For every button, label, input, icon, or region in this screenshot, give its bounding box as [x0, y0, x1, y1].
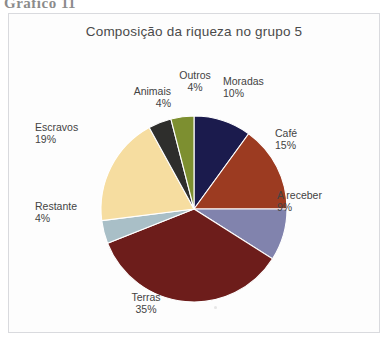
pie-label-cafe-name: Café [275, 128, 317, 140]
scan-speck [157, 38, 159, 40]
pie-label-escravos-name: Escravos [35, 122, 97, 134]
pie-label-outros-name: Outros [175, 70, 215, 82]
pie-label-restante-value: 4% [35, 213, 93, 225]
pie-label-a-receber-name: A receber [277, 190, 339, 202]
pie-label-moradas: Moradas 10% [223, 76, 281, 99]
pie-label-escravos-value: 19% [35, 134, 97, 146]
pie-label-moradas-value: 10% [223, 88, 281, 100]
pie-label-restante-name: Restante [35, 201, 93, 213]
pie-label-outros-value: 4% [175, 82, 215, 94]
pie-svg [9, 14, 381, 334]
pie-label-terras: Terras 35% [119, 292, 173, 315]
pie-label-animais-value: 4% [117, 98, 171, 110]
pie-label-outros: Outros 4% [175, 70, 215, 93]
pie-label-restante: Restante 4% [35, 201, 93, 224]
figure-caption: Gráfico 11 [4, 0, 76, 12]
pie-label-a-receber: A receber 9% [277, 190, 339, 213]
pie-label-cafe-value: 15% [275, 140, 317, 152]
pie-label-a-receber-value: 9% [277, 202, 339, 214]
pie-label-escravos: Escravos 19% [35, 122, 97, 145]
pie-label-terras-value: 35% [119, 304, 173, 316]
pie-label-moradas-name: Moradas [223, 76, 281, 88]
pie-chart: Animais 4% Outros 4% Moradas 10% Café 15… [9, 14, 381, 334]
pie-label-animais-name: Animais [117, 86, 171, 98]
scan-speck [214, 306, 217, 309]
pie-label-terras-name: Terras [119, 292, 173, 304]
pie-slice-group [101, 116, 287, 302]
chart-frame: Composição da riqueza no grupo 5 Animais… [8, 13, 380, 333]
pie-label-cafe: Café 15% [275, 128, 317, 151]
pie-label-animais: Animais 4% [117, 86, 171, 109]
